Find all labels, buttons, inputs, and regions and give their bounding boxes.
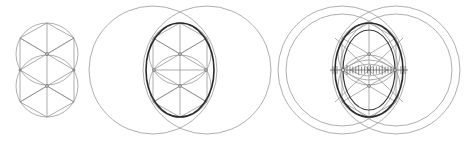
diagonal: [153, 38, 180, 54]
figure-stage-2: [89, 6, 271, 134]
figure-stage-1: [16, 23, 78, 117]
center-point: [368, 85, 371, 88]
hex-edge: [20, 23, 47, 38]
intersection-point: [394, 69, 397, 72]
diagonal: [180, 86, 207, 102]
intersection-point: [153, 69, 156, 72]
diagonal: [20, 38, 47, 54]
oval-construction-diagram: [0, 0, 472, 142]
center-point: [179, 53, 182, 56]
diagonal: [47, 38, 74, 54]
intersection-point: [342, 69, 345, 72]
diagonal: [153, 86, 180, 102]
diagonal: [180, 38, 207, 54]
center-point: [368, 53, 371, 56]
hex-edge: [47, 23, 74, 38]
hex-edge: [47, 102, 74, 117]
center-point: [46, 53, 49, 56]
intersection-point: [73, 69, 75, 71]
diagonal: [47, 86, 74, 102]
intersection-point: [19, 69, 21, 71]
figure-stage-3: [278, 6, 460, 134]
hex-edge: [20, 102, 47, 117]
diagonal: [20, 86, 47, 102]
diagram-canvas: [0, 0, 472, 142]
center-point: [46, 85, 49, 88]
intersection-point: [205, 69, 208, 72]
center-point: [179, 85, 182, 88]
